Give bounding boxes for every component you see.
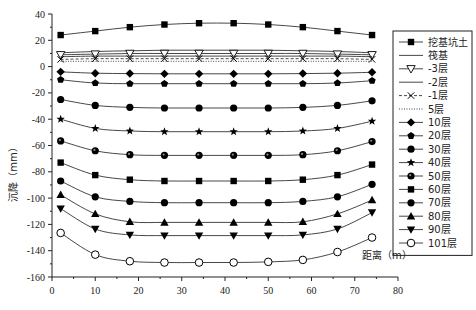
legend-label: 筏基	[428, 49, 448, 61]
series-6	[56, 68, 376, 78]
x-tick-label: 50	[263, 285, 273, 296]
legend-label: 70层	[428, 197, 451, 208]
legend-label: 80层	[428, 211, 451, 222]
x-axis-label: 距离（m）	[362, 249, 412, 261]
legend-label: 5层	[428, 104, 444, 115]
series-10	[57, 137, 376, 159]
legend-label: 101层	[428, 238, 457, 249]
legend-label: 挖基坑土	[428, 36, 468, 48]
series-12	[57, 177, 376, 206]
x-tick-label: 0	[50, 285, 55, 296]
series-3	[61, 56, 372, 57]
legend-label: 90层	[428, 224, 451, 235]
y-tick-label: 40	[35, 9, 45, 20]
y-tick-label: -160	[27, 272, 45, 283]
legend-label: 60层	[428, 184, 451, 195]
legend-label: 20层	[428, 130, 451, 141]
series-13	[56, 191, 376, 226]
x-tick-label: 70	[350, 285, 360, 296]
y-tick-label: -60	[32, 140, 45, 151]
series-group	[56, 20, 376, 266]
x-tick-label: 10	[90, 285, 100, 296]
x-tick-label: 40	[220, 285, 230, 296]
x-tick-label: 20	[134, 285, 144, 296]
legend-label: 40层	[428, 157, 451, 168]
x-tick-label: 30	[177, 285, 187, 296]
series-1	[61, 50, 372, 53]
series-15	[57, 229, 376, 266]
y-axis-label: 沉降（mm）	[7, 142, 19, 201]
series-9	[57, 115, 377, 136]
legend-label: -3层	[428, 63, 448, 74]
settlement-line-chart: 40200-20-40-60-80-100-120-140-1600102030…	[0, 0, 476, 310]
legend-label: 30层	[428, 144, 451, 155]
y-tick-label: -40	[32, 114, 45, 125]
series-0	[57, 20, 375, 38]
series-7	[57, 76, 376, 87]
legend-label: 10层	[428, 117, 451, 128]
series-8	[57, 96, 376, 112]
y-tick-label: -80	[32, 166, 45, 177]
legend-label: -2层	[428, 77, 448, 88]
legend-label: -1层	[428, 90, 448, 101]
y-tick-label: -140	[27, 245, 45, 256]
x-tick-label: 60	[307, 285, 317, 296]
legend-label: 50层	[428, 171, 451, 182]
y-tick-label: -120	[27, 219, 45, 230]
y-tick-label: -20	[32, 87, 45, 98]
x-tick-label: 80	[393, 285, 403, 296]
y-tick-label: 0	[40, 61, 45, 72]
series-11	[57, 159, 375, 184]
y-tick-label: -100	[27, 193, 45, 204]
legend: 挖基坑土筏基-3层-2层-1层5层10层20层30层40层50层60层70层80…	[393, 31, 472, 255]
y-tick-label: 20	[35, 35, 45, 46]
